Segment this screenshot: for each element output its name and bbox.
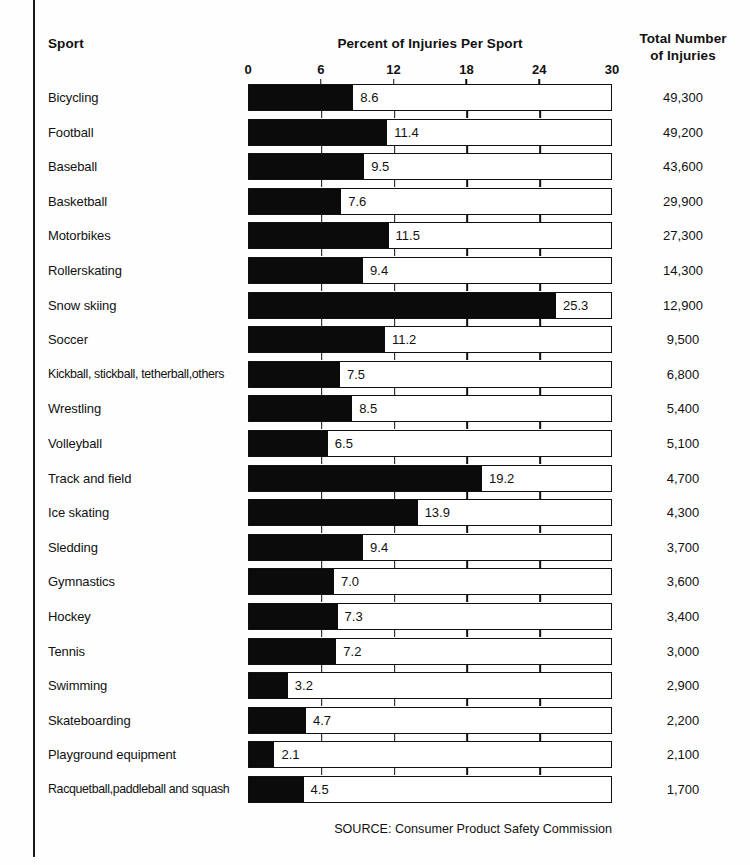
bar-fill [249,120,387,145]
bar-track: 11.4 [248,119,612,146]
chart-row: Swimming3.22,900 [0,672,750,707]
grid-tick-6 [321,629,323,637]
grid-tick-24 [539,664,541,672]
grid-tick-24 [539,456,541,464]
grid-tick-24 [539,248,541,256]
total-injuries-value: 3,000 [620,638,746,665]
grid-tick-6 [321,318,323,326]
grid-tick-6 [321,456,323,464]
grid-tick-18 [467,179,469,187]
chart-page: Sport Percent of Injuries Per Sport Tota… [0,0,750,865]
grid-tick-12 [394,421,396,429]
x-tick-label-12: 12 [386,62,400,77]
bar-fill [249,742,274,767]
bar-track: 7.2 [248,638,612,665]
grid-tick-6 [321,525,323,533]
bar-track: 11.5 [248,222,612,249]
grid-tick-6 [321,698,323,706]
source-note: SOURCE: Consumer Product Safety Commissi… [248,822,612,836]
bar-track: 7.0 [248,568,612,595]
grid-tick-12 [394,560,396,568]
bar-value-label: 11.2 [385,327,416,352]
grid-tick-12 [394,491,396,499]
chart-row: Playground equipment2.12,100 [0,741,750,776]
grid-tick-6 [321,387,323,395]
bar-fill [249,258,363,283]
bar-fill [249,362,340,387]
row-label-baseball: Baseball [48,153,97,180]
bar-value-label: 4.5 [304,777,329,802]
bar-fill [249,569,334,594]
chart-row: Basketball7.629,900 [0,188,750,223]
total-injuries-value: 43,600 [620,153,746,180]
bar-track: 19.2 [248,465,612,492]
chart-row: Rollerskating9.414,300 [0,257,750,292]
grid-tick-18 [467,629,469,637]
grid-tick-12 [394,387,396,395]
bar-track: 7.5 [248,361,612,388]
grid-tick-6 [321,145,323,153]
grid-tick-12 [394,248,396,256]
total-injuries-value: 27,300 [620,222,746,249]
chart-row: Tennis7.23,000 [0,638,750,673]
total-injuries-value: 12,900 [620,292,746,319]
total-injuries-value: 9,500 [620,326,746,353]
total-injuries-value: 5,400 [620,395,746,422]
grid-tick-12 [394,664,396,672]
grid-tick-18 [467,456,469,464]
grid-tick-12 [394,698,396,706]
grid-tick-24 [539,767,541,775]
bar-value-label: 3.2 [288,673,313,698]
row-label-racquetball-paddleball-and-squash: Racquetball,paddleball and squash [48,776,229,803]
bar-fill [249,604,338,629]
grid-tick-24 [539,352,541,360]
grid-tick-24 [539,560,541,568]
grid-tick-12 [394,456,396,464]
grid-tick-18 [467,214,469,222]
grid-tick-6 [321,248,323,256]
chart-title: Percent of Injuries Per Sport [248,36,612,51]
grid-tick-24 [539,421,541,429]
chart-row: Volleyball6.55,100 [0,430,750,465]
bar-value-label: 9.4 [363,535,388,560]
chart-row: Track and field19.24,700 [0,465,750,500]
bar-track: 7.3 [248,603,612,630]
grid-tick-24 [539,283,541,291]
grid-tick-18 [467,733,469,741]
column-header-total-line2: of Injuries [620,47,746,64]
chart-row: Motorbikes11.527,300 [0,222,750,257]
grid-tick-12 [394,318,396,326]
row-label-motorbikes: Motorbikes [48,222,111,249]
chart-row: Skateboarding4.72,200 [0,707,750,742]
row-label-bicycling: Bicycling [48,84,98,111]
bar-value-label: 25.3 [556,293,588,318]
bar-value-label: 7.3 [338,604,363,629]
bar-track: 3.2 [248,672,612,699]
grid-tick-6 [321,594,323,602]
chart-rows: Bicycling8.649,300Football11.449,200Base… [0,84,750,810]
bar-track: 9.4 [248,534,612,561]
bar-value-label: 2.1 [274,742,299,767]
bar-value-label: 13.9 [418,500,450,525]
bar-fill [249,777,304,802]
bar-track: 4.5 [248,776,612,803]
x-tick-label-18: 18 [459,62,473,77]
total-injuries-value: 1,700 [620,776,746,803]
chart-row: Baseball9.543,600 [0,153,750,188]
bar-value-label: 6.5 [328,431,353,456]
total-injuries-value: 2,200 [620,707,746,734]
chart-row: Soccer11.29,500 [0,326,750,361]
grid-tick-12 [394,110,396,118]
grid-tick-12 [394,733,396,741]
row-label-track-and-field: Track and field [48,465,131,492]
bar-value-label: 8.6 [353,85,378,110]
bar-track: 8.5 [248,395,612,422]
bar-fill [249,154,364,179]
total-injuries-value: 6,800 [620,361,746,388]
row-label-sledding: Sledding [48,534,98,561]
column-header-total-line1: Total Number [620,30,746,47]
grid-tick-24 [539,698,541,706]
bar-fill [249,85,353,110]
bar-fill [249,431,328,456]
chart-row: Racquetball,paddleball and squash4.51,70… [0,776,750,811]
